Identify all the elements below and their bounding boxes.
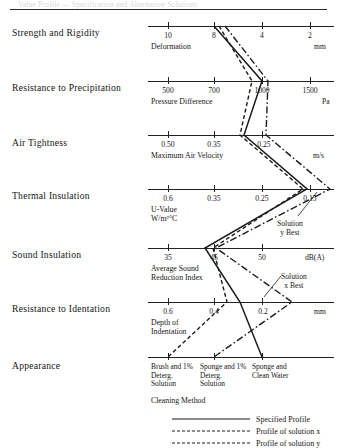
legend-label-solution-x: Profile of solution x xyxy=(256,427,320,436)
leader-line-solution-x xyxy=(264,276,281,297)
leader-line-solution-y xyxy=(298,192,317,216)
legend-swatch-dashed-icon xyxy=(172,426,250,436)
legend-swatch-solid-icon xyxy=(172,414,250,424)
legend-label-specified-profile: Specified Profile xyxy=(256,415,310,424)
legend-label-solution-y: Profile of solution y xyxy=(256,439,320,448)
profile-line-specified xyxy=(205,26,307,357)
legend-item-solution-x: Profile of solution x xyxy=(172,426,320,436)
legend-swatch-dashdot-icon xyxy=(172,438,250,448)
legend-item-solution-y: Profile of solution y xyxy=(172,438,320,448)
profile-line-solution-y xyxy=(214,26,330,357)
legend-item-specified-profile: Specified Profile xyxy=(172,414,310,424)
profile-line-solution-x xyxy=(168,26,303,357)
